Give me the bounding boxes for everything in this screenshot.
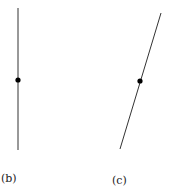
panel-c-label: (c) — [112, 174, 127, 187]
panel-b-point — [15, 77, 20, 82]
panel-c — [120, 13, 161, 149]
panel-b — [15, 8, 20, 150]
panel-b-label: (b) — [1, 172, 17, 185]
panel-c-point — [137, 78, 142, 83]
figure-drawing — [0, 0, 175, 191]
figure: (b) (c) — [0, 0, 175, 191]
